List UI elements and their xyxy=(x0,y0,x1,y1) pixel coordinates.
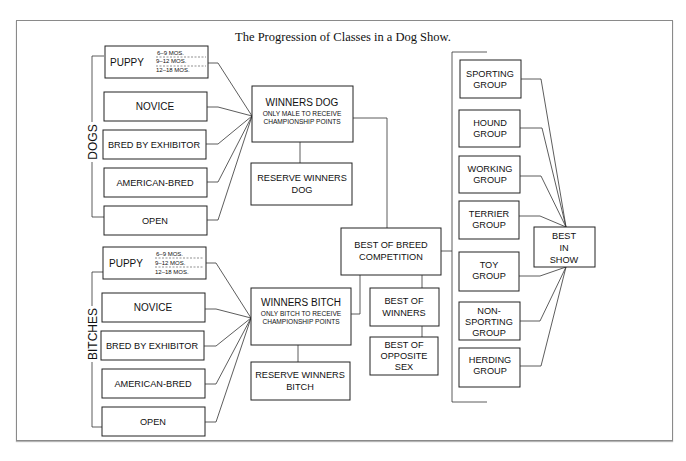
winners-dog-box: WINNERS DOG ONLY MALE TO RECEIVE CHAMPIO… xyxy=(252,86,353,142)
bitches-puppy-box: PUPPY 6–9 MOS. 9–12 MOS. 12–18 MOS. xyxy=(103,247,206,279)
svg-text:WORKING: WORKING xyxy=(468,164,513,174)
svg-text:OPEN: OPEN xyxy=(142,216,168,226)
svg-text:BEST OF BREED: BEST OF BREED xyxy=(354,240,428,250)
svg-text:BRED BY EXHIBITOR: BRED BY EXHIBITOR xyxy=(106,341,198,351)
svg-text:BEST OF: BEST OF xyxy=(384,340,424,350)
svg-text:GROUP: GROUP xyxy=(473,175,507,185)
herding-group-box: HERDING GROUP xyxy=(459,348,520,387)
svg-text:IN: IN xyxy=(559,243,568,253)
working-group-box: WORKING GROUP xyxy=(459,156,520,193)
svg-text:BEST OF: BEST OF xyxy=(384,296,424,306)
svg-text:PUPPY: PUPPY xyxy=(109,258,143,269)
svg-text:GROUP: GROUP xyxy=(472,328,506,338)
svg-text:12–18 MOS.: 12–18 MOS. xyxy=(155,269,189,275)
svg-text:RESERVE WINNERS: RESERVE WINNERS xyxy=(255,370,345,380)
toy-group-box: TOY GROUP xyxy=(459,252,519,291)
svg-text:HOUND: HOUND xyxy=(473,118,507,128)
dogs-open-box: OPEN xyxy=(104,206,207,235)
wb-to-bob-connector xyxy=(351,275,360,314)
bitches-label: BITCHES xyxy=(86,308,100,360)
bitches-connectors xyxy=(204,263,251,422)
best-of-opposite-sex-box: BEST OF OPPOSITE SEX xyxy=(370,337,438,375)
bitches-american-bred-box: AMERICAN-BRED xyxy=(102,369,205,398)
bitches-open-box: OPEN xyxy=(102,407,205,436)
svg-text:GROUP: GROUP xyxy=(473,80,507,90)
bitches-bracket: BITCHES xyxy=(86,272,103,427)
svg-text:SHOW: SHOW xyxy=(550,255,579,265)
best-in-show-box: BEST IN SHOW xyxy=(534,227,595,267)
non-sporting-group-box: NON- SPORTING GROUP xyxy=(459,302,520,340)
reserve-winners-bitch-box: RESERVE WINNERS BITCH xyxy=(251,362,350,400)
hound-group-box: HOUND GROUP xyxy=(459,110,520,147)
svg-text:DOG: DOG xyxy=(292,185,313,195)
svg-text:WINNERS: WINNERS xyxy=(382,308,425,318)
best-of-winners-box: BEST OF WINNERS xyxy=(370,288,439,326)
svg-text:9–12 MOS.: 9–12 MOS. xyxy=(155,260,186,266)
reserve-winners-dog-box: RESERVE WINNERS DOG xyxy=(251,163,352,205)
svg-text:GROUP: GROUP xyxy=(472,271,506,281)
svg-text:AMERICAN-BRED: AMERICAN-BRED xyxy=(116,178,193,188)
svg-text:BRED BY EXHIBITOR: BRED BY EXHIBITOR xyxy=(108,140,200,150)
svg-text:GROUP: GROUP xyxy=(473,366,507,376)
dogs-american-bred-box: AMERICAN-BRED xyxy=(104,168,207,197)
flowchart: DOGS BITCHES PUPPY 6–9 MOS. 9–12 MOS. 12… xyxy=(0,0,686,461)
svg-text:NOVICE: NOVICE xyxy=(134,302,173,313)
svg-text:TOY: TOY xyxy=(480,260,499,270)
winners-bitch-box: WINNERS BITCH ONLY BITCH TO RECEIVE CHAM… xyxy=(251,288,351,345)
svg-text:OPPOSITE: OPPOSITE xyxy=(381,351,428,361)
svg-text:RESERVE WINNERS: RESERVE WINNERS xyxy=(257,173,347,183)
svg-text:GROUP: GROUP xyxy=(473,129,507,139)
svg-text:CHAMPIONSHIP POINTS: CHAMPIONSHIP POINTS xyxy=(262,318,340,325)
svg-text:OPEN: OPEN xyxy=(140,417,166,427)
svg-text:BITCH: BITCH xyxy=(286,382,314,392)
bitches-novice-box: NOVICE xyxy=(102,293,205,322)
dogs-puppy-box: PUPPY 6–9 MOS. 9–12 MOS. 12–18 MOS. xyxy=(105,46,208,78)
bitches-bred-by-exhibitor-box: BRED BY EXHIBITOR xyxy=(101,331,204,360)
dogs-bred-by-exhibitor-box: BRED BY EXHIBITOR xyxy=(103,130,206,159)
svg-text:NON-: NON- xyxy=(477,306,500,316)
dogs-connectors xyxy=(206,63,252,220)
sporting-group-box: SPORTING GROUP xyxy=(460,60,521,98)
best-of-breed-box: BEST OF BREED COMPETITION xyxy=(341,228,441,275)
puppy-age-2: 9–12 MOS. xyxy=(156,58,187,64)
svg-text:GROUP: GROUP xyxy=(472,220,506,230)
dogs-label: DOGS xyxy=(86,124,100,159)
puppy-age-3: 12–18 MOS. xyxy=(156,67,190,73)
terrier-group-box: TERRIER GROUP xyxy=(459,201,519,239)
svg-text:WINNERS BITCH: WINNERS BITCH xyxy=(261,297,341,308)
puppy-label: PUPPY xyxy=(110,57,144,68)
svg-text:BEST: BEST xyxy=(552,231,576,241)
dogs-bracket: DOGS xyxy=(86,56,104,217)
wd-to-bob-connector xyxy=(353,118,387,228)
svg-text:SPORTING: SPORTING xyxy=(465,317,513,327)
puppy-age-1: 6–9 MOS. xyxy=(157,50,184,56)
svg-text:SEX: SEX xyxy=(395,362,413,372)
svg-text:6–9 MOS.: 6–9 MOS. xyxy=(156,251,183,257)
svg-text:COMPETITION: COMPETITION xyxy=(359,252,423,262)
svg-text:NOVICE: NOVICE xyxy=(136,101,175,112)
svg-text:TERRIER: TERRIER xyxy=(469,209,510,219)
groups-to-bis-connectors xyxy=(519,79,566,366)
svg-text:AMERICAN-BRED: AMERICAN-BRED xyxy=(114,379,191,389)
svg-text:ONLY BITCH TO RECEIVE: ONLY BITCH TO RECEIVE xyxy=(261,310,342,317)
svg-text:HERDING: HERDING xyxy=(469,355,511,365)
svg-text:SPORTING: SPORTING xyxy=(466,69,514,79)
dogs-novice-box: NOVICE xyxy=(104,92,207,121)
svg-text:WINNERS DOG: WINNERS DOG xyxy=(266,97,339,108)
svg-text:CHAMPIONSHIP POINTS: CHAMPIONSHIP POINTS xyxy=(263,118,341,125)
svg-text:ONLY MALE TO RECEIVE: ONLY MALE TO RECEIVE xyxy=(263,110,342,117)
